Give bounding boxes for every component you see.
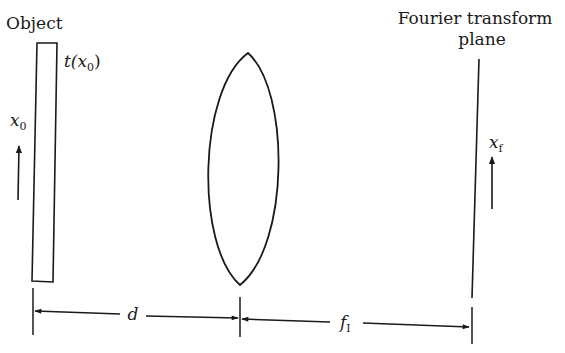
xf-label: xf: [489, 132, 504, 155]
optical-diagram: Object t(x0) x0 Fourier transform plane …: [0, 0, 565, 353]
d-arrow-left-icon: [35, 311, 120, 314]
d-arrow-right-icon: [146, 316, 238, 318]
lens: [208, 53, 278, 285]
object-label: Object: [6, 13, 63, 33]
fourier-plane-label-line2: plane: [458, 29, 505, 49]
distance-f-label: fI: [338, 312, 351, 335]
f-arrow-right-icon: [363, 323, 469, 327]
distance-d-label: d: [128, 304, 139, 324]
object-plane: [32, 43, 57, 282]
x0-label: x0: [10, 110, 27, 133]
fourier-plane-label-line1: Fourier transform: [398, 8, 553, 28]
fourier-plane: [472, 59, 479, 298]
x0-axis-arrow-icon: [18, 146, 19, 200]
transmittance-label: t(x0): [64, 51, 101, 74]
f-arrow-left-icon: [242, 319, 330, 322]
